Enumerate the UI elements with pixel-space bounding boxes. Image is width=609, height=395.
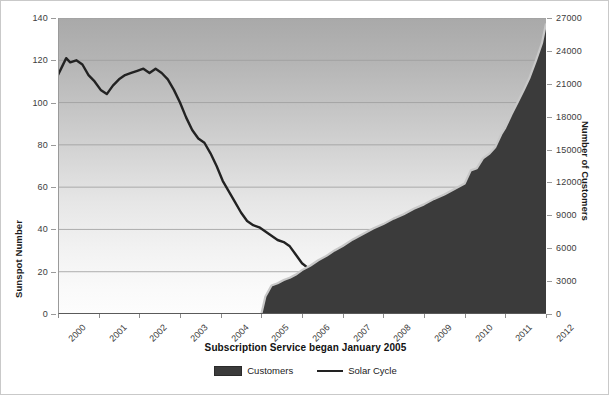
y-axis-left-tick-label: 120 <box>32 55 48 65</box>
y-axis-left-tick-label: 60 <box>38 182 48 192</box>
x-axis-tick-label: 2000 <box>66 322 87 343</box>
y-axis-left-tick <box>51 103 56 104</box>
y-axis-left-tick-label: 20 <box>38 267 48 277</box>
x-axis-tick-label: 2002 <box>148 322 169 343</box>
y-axis-right-tick <box>547 215 552 216</box>
y-axis-right-tick-label: 12000 <box>556 177 582 187</box>
x-axis-tick <box>465 314 466 318</box>
y-axis-right-tick <box>547 314 552 315</box>
area-series-customers <box>261 23 546 314</box>
x-axis-tick <box>302 314 303 318</box>
y-axis-left: 020406080100120140 <box>1 1 56 331</box>
x-axis-tick-label: 2003 <box>188 322 209 343</box>
y-axis-right-tick <box>547 248 552 249</box>
y-axis-right-tick <box>547 150 552 151</box>
x-axis-tick-label: 2006 <box>310 322 331 343</box>
y-axis-left-tick <box>51 145 56 146</box>
y-axis-right-tick <box>547 84 552 85</box>
y-axis-right-tick-label: 0 <box>556 309 561 319</box>
x-axis-tick <box>546 314 547 318</box>
x-axis-tick <box>343 314 344 318</box>
y-axis-left-tick-label: 80 <box>38 140 48 150</box>
y-axis-left-tick <box>51 272 56 273</box>
y-axis-right-tick <box>547 51 552 52</box>
y-axis-left-tick <box>51 187 56 188</box>
y-axis-right-tick-label: 9000 <box>556 210 577 220</box>
x-axis-tick <box>58 314 59 318</box>
y-axis-left-tick-label: 40 <box>38 224 48 234</box>
x-axis-tick-label: 2011 <box>514 322 535 343</box>
x-axis-tick <box>221 314 222 318</box>
plot-area <box>58 18 546 314</box>
chart-figure: 020406080100120140 030006000900012000150… <box>0 0 609 395</box>
x-axis-tick-label: 2005 <box>270 322 291 343</box>
x-axis-tick <box>139 314 140 318</box>
x-axis-tick-label: 2010 <box>473 322 494 343</box>
legend-area-swatch-icon <box>214 366 242 376</box>
x-axis-tick-label: 2004 <box>229 322 250 343</box>
legend-item-solar[interactable]: Solar Cycle <box>317 365 397 376</box>
y-axis-left-tick-label: 0 <box>43 309 48 319</box>
y-axis-right-title: Number of Customers <box>580 121 591 221</box>
x-axis-tick-label: 2008 <box>392 322 413 343</box>
y-axis-left-tick-label: 140 <box>32 13 48 23</box>
legend-line-swatch-icon <box>317 370 343 372</box>
y-axis-right: 0300060009000120001500018000210002400027… <box>547 1 609 331</box>
chart-legend: CustomersSolar Cycle <box>1 365 609 376</box>
y-axis-left-tick <box>51 60 56 61</box>
legend-label: Customers <box>247 365 293 376</box>
y-axis-right-tick-label: 24000 <box>556 46 582 56</box>
y-axis-right-tick-label: 21000 <box>556 79 582 89</box>
y-axis-right-tick-label: 18000 <box>556 112 582 122</box>
x-axis-tick-label: 2001 <box>107 322 128 343</box>
legend-item-customers[interactable]: Customers <box>214 365 293 376</box>
y-axis-right-tick <box>547 281 552 282</box>
y-axis-left-title: Sunspot Number <box>13 189 24 329</box>
x-axis-tick <box>180 314 181 318</box>
x-axis-tick <box>383 314 384 318</box>
chart-caption: Subscription Service began January 2005 <box>1 342 609 353</box>
x-axis-tick <box>424 314 425 318</box>
x-axis-tick <box>505 314 506 318</box>
x-axis-tick <box>99 314 100 318</box>
legend-label: Solar Cycle <box>348 365 397 376</box>
x-axis-tick-label: 2007 <box>351 322 372 343</box>
x-axis-tick <box>261 314 262 318</box>
y-axis-right-tick-label: 15000 <box>556 145 582 155</box>
y-axis-right-tick <box>547 18 552 19</box>
y-axis-left-tick <box>51 229 56 230</box>
y-axis-left-tick <box>51 18 56 19</box>
series-canvas <box>58 18 546 314</box>
x-axis-tick-label: 2009 <box>432 322 453 343</box>
y-axis-left-tick-label: 100 <box>32 98 48 108</box>
y-axis-right-tick <box>547 117 552 118</box>
y-axis-right-tick <box>547 182 552 183</box>
y-axis-right-tick-label: 6000 <box>556 243 577 253</box>
y-axis-left-tick <box>51 314 56 315</box>
y-axis-right-tick-label: 3000 <box>556 276 577 286</box>
y-axis-right-tick-label: 27000 <box>556 13 582 23</box>
